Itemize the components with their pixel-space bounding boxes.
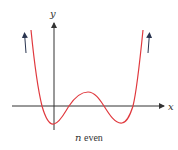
left-end-arrow-icon <box>25 33 27 53</box>
caption-text: even <box>81 132 102 143</box>
y-axis-label: y <box>49 8 56 19</box>
polynomial-diagram: y x n even <box>0 0 178 150</box>
diagram-canvas: y x n even <box>0 0 178 150</box>
right-end-arrow-icon <box>148 33 150 53</box>
polynomial-curve <box>31 30 143 124</box>
caption: n even <box>75 132 103 143</box>
x-axis-label: x <box>168 101 174 112</box>
